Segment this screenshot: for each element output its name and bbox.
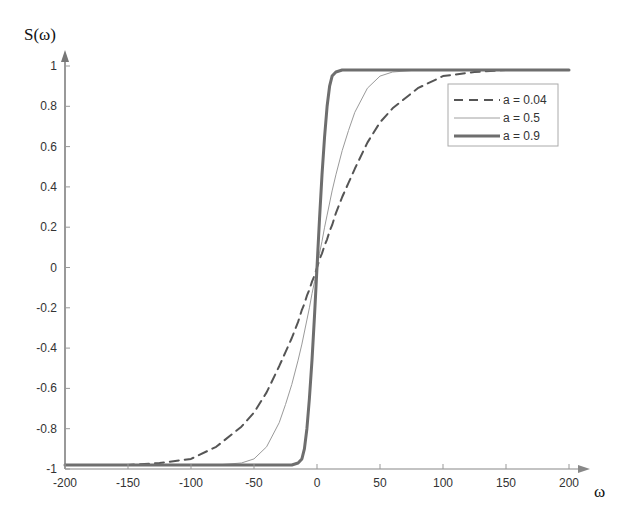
legend-label-2: a = 0.5 — [503, 111, 540, 125]
y-tick-label: 0.8 — [40, 99, 57, 113]
x-tick-label: -100 — [179, 476, 203, 490]
y-tick-label: 1 — [50, 59, 57, 73]
x-tick-label: 0 — [314, 476, 321, 490]
y-tick-label: 0.2 — [40, 220, 57, 234]
legend-label-1: a = 0.04 — [503, 93, 547, 107]
y-tick-label: -0.6 — [36, 381, 57, 395]
x-tick-label: 50 — [373, 476, 387, 490]
x-ticks: -200-150-100-50050100150200 — [53, 464, 579, 490]
y-tick-label: 0.4 — [40, 180, 57, 194]
x-tick-label: 200 — [559, 476, 579, 490]
y-tick-label: -1 — [46, 462, 57, 476]
x-tick-label: -200 — [53, 476, 77, 490]
y-tick-label: -0.8 — [36, 422, 57, 436]
x-tick-label: 100 — [433, 476, 453, 490]
x-tick-label: 150 — [496, 476, 516, 490]
legend: a = 0.04 a = 0.5 a = 0.9 — [448, 84, 558, 146]
x-axis-arrow-icon — [578, 465, 590, 473]
y-tick-label: 0.6 — [40, 140, 57, 154]
x-tick-label: -150 — [116, 476, 140, 490]
y-tick-label: -0.4 — [36, 341, 57, 355]
y-tick-label: -0.2 — [36, 301, 57, 315]
chart-canvas: -1-0.8-0.6-0.4-0.200.20.40.60.81 -200-15… — [0, 0, 638, 523]
y-axis-arrow-icon — [61, 50, 69, 62]
y-tick-label: 0 — [50, 261, 57, 275]
y-axis-label: S(ω) — [24, 25, 56, 44]
x-axis-label: ω — [594, 482, 605, 501]
x-tick-label: -50 — [245, 476, 263, 490]
legend-label-3: a = 0.9 — [503, 129, 540, 143]
